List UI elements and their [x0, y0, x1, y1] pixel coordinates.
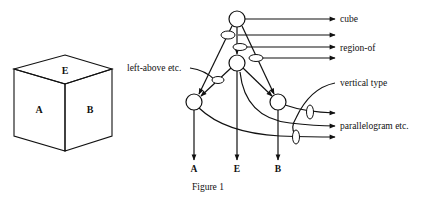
cube-face-e-label: E [62, 65, 69, 76]
left-above-label: left-above etc. [127, 63, 181, 73]
node-b [270, 94, 286, 110]
group-ellipse-5 [307, 105, 314, 119]
group-ellipse-4 [212, 77, 224, 84]
bottom-label-a: A [191, 164, 198, 174]
group-ellipse-1 [221, 31, 235, 39]
network-edges [190, 19, 335, 160]
figure-caption: Figure 1 [192, 182, 224, 192]
figure-canvas: E A B [0, 0, 430, 198]
cube-face-a-label: A [35, 104, 43, 115]
group-ellipse-2 [233, 44, 247, 51]
cube-label: cube [340, 14, 358, 24]
node-cube [229, 11, 245, 27]
node-mid [229, 55, 245, 71]
group-ellipse-6 [293, 130, 300, 144]
node-a [186, 94, 202, 110]
bottom-label-e: E [234, 164, 240, 174]
bottom-label-b: B [275, 164, 282, 174]
parallelogram-label: parallelogram etc. [340, 121, 409, 131]
group-ellipse-3 [249, 55, 263, 62]
edge-mid-right [243, 68, 272, 96]
edge-mid-parallelogram [240, 72, 335, 126]
cube-face-b-label: B [87, 104, 94, 115]
vertical-type-label: vertical type [340, 78, 387, 88]
edge-left-parallelogram [199, 108, 335, 137]
region-of-label: region-of [340, 43, 376, 53]
